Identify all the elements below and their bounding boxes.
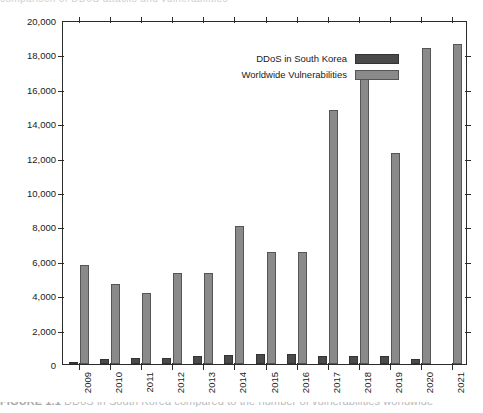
x-axis-label-2018: 2018 [362,372,373,393]
x-axis-label-2010: 2010 [113,372,124,393]
bar-ddos-2016 [287,354,296,364]
x-axis-tick-mark-top [359,17,360,23]
y-axis-tick-mark [58,297,64,298]
x-axis-tick-mark-top [234,17,235,23]
bar-ddos-2014 [224,355,233,364]
y-axis-tick-label: 6,000 [32,256,56,267]
bar-vulnerabilities-2016 [298,252,307,364]
x-axis-tick-mark-top [172,17,173,23]
x-axis-tick-mark-top [141,17,142,23]
bar-vulnerabilities-2018 [360,79,369,364]
bar-vulnerabilities-2019 [391,153,400,364]
y-axis-tick-mark [58,194,64,195]
y-axis-tick-mark [58,263,64,264]
x-axis-tick-mark-top [110,17,111,23]
x-axis-label-2012: 2012 [175,372,186,393]
y-axis-tick-mark-right [465,194,471,195]
figure-container: comparison of DDoS attacks and vulnerabi… [0,0,483,413]
y-axis-tick-mark [58,160,64,161]
x-axis-label-2014: 2014 [237,372,248,393]
y-axis-tick-mark-right [465,125,471,126]
bar-ddos-2018 [349,356,358,364]
y-axis-tick-label: 12,000 [27,153,56,164]
y-axis-tick-label: 2,000 [32,325,56,336]
bar-vulnerabilities-2012 [173,273,182,364]
bar-ddos-2015 [256,354,265,364]
y-axis-tick-label: 14,000 [27,119,56,130]
legend-label-vulnerabilities: Worldwide Vulnerabilities [241,69,347,80]
x-axis-tick-mark-top [328,17,329,23]
y-axis-tick-mark [58,56,64,57]
y-axis-tick-label: 0 [51,360,56,371]
bar-ddos-2019 [380,356,389,364]
y-axis-tick-mark [58,125,64,126]
x-axis-tick-mark-top [79,17,80,23]
x-axis-tick-mark-top [266,17,267,23]
bar-vulnerabilities-2014 [235,226,244,364]
x-axis-label-2017: 2017 [331,372,342,393]
x-axis-tick-mark-top [421,17,422,23]
x-axis-label-2016: 2016 [300,372,311,393]
bar-ddos-2013 [193,356,202,364]
bar-ddos-2017 [318,356,327,364]
bar-ddos-2012 [162,358,171,364]
y-axis-tick-label: 4,000 [32,291,56,302]
legend-item-ddos: DDoS in South Korea [179,52,399,65]
y-axis-tick-label: 10,000 [27,188,56,199]
y-axis-labels: 02,0004,0006,0008,00010,00012,00014,0001… [0,21,56,365]
x-axis-label-2009: 2009 [82,372,93,393]
y-axis-tick-mark [58,332,64,333]
x-axis-tick-mark-top [203,17,204,23]
x-axis-label-2019: 2019 [393,372,404,393]
plot-area: DDoS in South Korea Worldwide Vulnerabil… [62,21,467,365]
chart-legend: DDoS in South Korea Worldwide Vulnerabil… [179,52,399,84]
y-axis-tick-mark [58,228,64,229]
x-axis-tick-mark-top [390,17,391,23]
legend-item-vulnerabilities: Worldwide Vulnerabilities [179,68,399,81]
figure-caption-text: FIGURE 1.1 DDoS in South Korea compared … [0,402,483,407]
figure-caption: FIGURE 1.1 DDoS in South Korea compared … [0,402,483,413]
figure-caption-body: DDoS in South Korea compared to the numb… [64,402,433,407]
y-axis-tick-mark-right [465,228,471,229]
x-axis-label-2011: 2011 [144,372,155,392]
x-axis-label-2015: 2015 [269,372,280,393]
figure-caption-prefix: FIGURE 1.1 [0,402,61,407]
bar-ddos-2009 [69,362,78,364]
bar-vulnerabilities-2011 [142,293,151,364]
y-axis-tick-mark-right [465,160,471,161]
y-axis-tick-mark [58,91,64,92]
y-axis-tick-label: 18,000 [27,50,56,61]
legend-label-ddos: DDoS in South Korea [256,53,347,64]
x-axis-tick-mark-top [452,17,453,23]
y-axis-tick-mark-right [465,332,471,333]
y-axis-tick-mark-right [465,263,471,264]
legend-swatch-vulnerabilities-icon [355,70,399,80]
y-axis-tick-mark-right [465,297,471,298]
y-axis-tick-mark-right [465,56,471,57]
bar-ddos-2011 [131,358,140,364]
y-axis-tick-label: 8,000 [32,222,56,233]
bar-vulnerabilities-2013 [204,273,213,364]
y-axis-tick-mark-right [465,91,471,92]
bar-chart: 02,0004,0006,0008,00010,00012,00014,0001… [0,0,483,413]
legend-swatch-ddos-icon [355,54,399,64]
x-axis-tick-mark-top [297,17,298,23]
x-axis-label-2013: 2013 [206,372,217,393]
bar-vulnerabilities-2009 [80,265,89,364]
y-axis-tick-label: 16,000 [27,84,56,95]
bar-vulnerabilities-2020 [422,48,431,364]
bar-vulnerabilities-2021 [453,44,462,364]
y-axis-tick-label: 20,000 [27,16,56,27]
x-axis-label-2021: 2021 [455,372,466,393]
bar-ddos-2010 [100,359,109,364]
x-axis-label-2020: 2020 [424,372,435,393]
bar-vulnerabilities-2015 [267,252,276,364]
bar-vulnerabilities-2017 [329,110,338,364]
bar-vulnerabilities-2010 [111,284,120,364]
bar-ddos-2020 [411,359,420,364]
